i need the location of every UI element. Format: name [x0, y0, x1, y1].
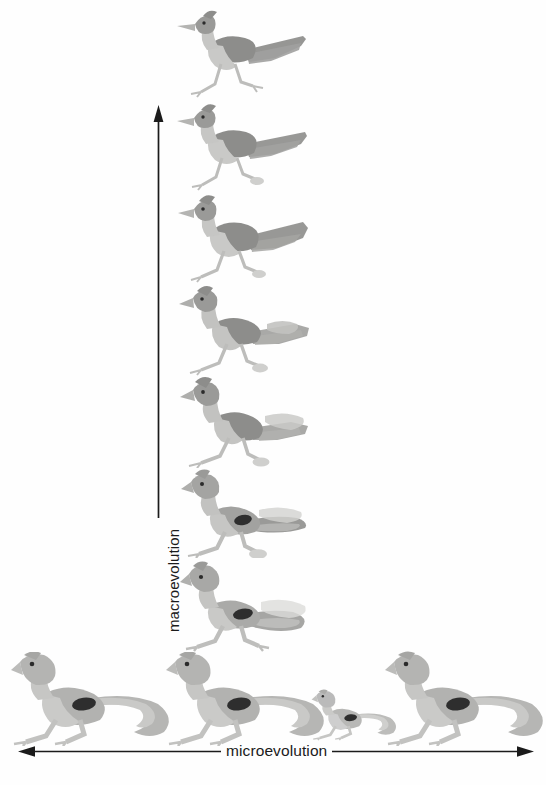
lizard-form-1: [175, 556, 315, 652]
macroevolution-axis: [146, 100, 172, 524]
roadrunner-bird: [175, 8, 310, 100]
arrowhead-up-icon: [154, 105, 164, 122]
bird-like-form-5: [175, 192, 310, 284]
arrowhead-right-icon: [517, 746, 534, 757]
evolution-figure: macroevolution microevolution: [0, 0, 546, 785]
arrowhead-left-icon: [18, 746, 35, 757]
lizard-like-form-2: [175, 466, 310, 558]
bird-like-form-6: [175, 100, 310, 192]
transitional-form-4: [175, 284, 310, 376]
transitional-form-3: [175, 376, 310, 468]
lizard-variant-4: [382, 650, 546, 746]
lizard-variant-1: [8, 652, 180, 746]
